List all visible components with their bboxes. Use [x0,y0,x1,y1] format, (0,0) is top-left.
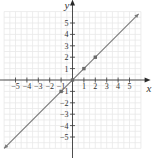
y-axis-arrow-icon [70,0,75,6]
x-tick-label: −4 [23,82,32,91]
data-point [82,67,85,70]
chart: −5−4−3−2−112345−5−4−3−2−112345 x y [0,0,153,158]
y-tick-label: 5 [65,19,69,28]
axes [0,0,151,158]
y-tick-label: 4 [65,30,69,39]
y-tick-label: 3 [65,42,69,51]
y-tick-label: −5 [60,133,69,142]
x-tick-label: 2 [93,82,97,91]
x-tick-label: −3 [34,82,43,91]
y-tick-label: −3 [60,110,69,119]
y-tick-label: −2 [60,99,69,108]
x-tick-label: −5 [11,82,20,91]
x-tick-label: 3 [105,82,109,91]
x-tick-label: 4 [116,82,120,91]
x-tick-label: −2 [45,82,54,91]
data-point [59,90,62,93]
data-point [94,56,97,59]
x-tick-label: 1 [82,82,86,91]
x-tick-label: 5 [128,82,132,91]
data-point [71,78,74,81]
y-tick-label: 2 [65,53,69,62]
y-tick-label: 1 [65,65,69,74]
x-axis-label: x [146,82,152,94]
y-tick-label: −4 [60,122,69,131]
y-axis-label: y [64,0,70,11]
